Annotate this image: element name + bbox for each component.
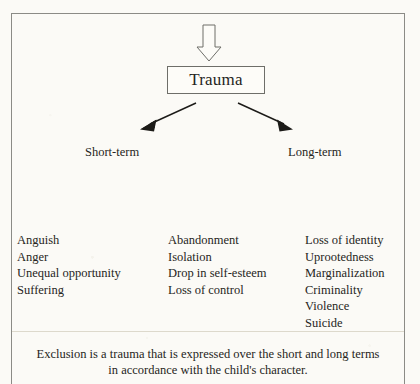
caption-line-1: Exclusion is a trauma that is expressed … <box>12 346 404 362</box>
list-item: Anger <box>17 249 121 266</box>
effects-column-long-term: Loss of identity Uprootedness Marginaliz… <box>305 232 385 331</box>
effects-column-middle: Abandonment Isolation Drop in self-estee… <box>168 232 267 298</box>
list-item: Abandonment <box>168 232 267 249</box>
list-item: Anguish <box>17 232 121 249</box>
list-item: Loss of control <box>168 282 267 299</box>
hollow-down-arrow-icon <box>197 25 221 61</box>
list-item: Unequal opportunity <box>17 265 121 282</box>
list-item: Uprootedness <box>305 249 385 266</box>
list-item: Violence <box>305 298 385 315</box>
effects-column-short-term: Anguish Anger Unequal opportunity Suffer… <box>17 232 121 298</box>
list-item: Criminality <box>305 282 385 299</box>
trauma-diagram-figure: Trauma Short-term Long-term Anguish Ange… <box>0 0 420 384</box>
list-item: Isolation <box>168 249 267 266</box>
branch-label-short-term: Short-term <box>85 145 139 160</box>
list-item: Suicide <box>305 315 385 332</box>
list-item: Drop in self-esteem <box>168 265 267 282</box>
diagonal-arrow-down-right-icon <box>238 103 293 132</box>
branch-label-long-term: Long-term <box>288 145 341 160</box>
caption-line-2: in accordance with the child's character… <box>12 362 404 378</box>
list-item: Suffering <box>17 282 121 299</box>
figure-caption: Exclusion is a trauma that is expressed … <box>12 346 404 378</box>
list-item: Marginalization <box>305 265 385 282</box>
list-item: Loss of identity <box>305 232 385 249</box>
diagonal-arrow-down-left-icon <box>140 103 196 132</box>
trauma-node: Trauma <box>167 66 265 94</box>
trauma-node-label: Trauma <box>189 70 242 90</box>
caption-divider-rule <box>12 331 404 332</box>
